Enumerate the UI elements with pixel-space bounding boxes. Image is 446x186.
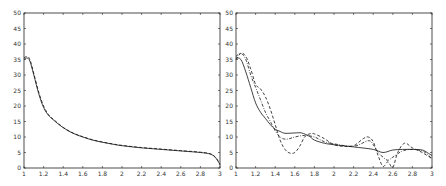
left-plot: 11.21.41.61.822.22.42.62.830510152025303… <box>13 9 222 177</box>
x-tick-label: 1.2 <box>251 170 261 177</box>
series-line-dashed <box>24 56 220 164</box>
x-tick-label: 1 <box>22 170 26 177</box>
x-tick-label: 1.4 <box>270 170 280 177</box>
y-tick-label: 30 <box>225 71 233 78</box>
x-tick-label: 1.6 <box>78 170 88 177</box>
x-tick-label: 2.4 <box>156 170 166 177</box>
x-tick-label: 2.6 <box>176 170 186 177</box>
x-tick-label: 1.6 <box>290 170 300 177</box>
y-tick-label: 25 <box>13 87 21 94</box>
x-tick-label: 1 <box>234 170 238 177</box>
y-tick-label: 10 <box>13 133 21 140</box>
x-tick-label: 2.4 <box>368 170 378 177</box>
plot-frame <box>24 13 220 168</box>
figure: 11.21.41.61.822.22.42.62.830510152025303… <box>0 0 446 186</box>
y-tick-label: 5 <box>17 149 21 156</box>
x-tick-label: 3 <box>218 170 222 177</box>
y-tick-label: 15 <box>225 118 233 125</box>
x-tick-label: 1.2 <box>39 170 49 177</box>
y-tick-label: 0 <box>17 164 21 171</box>
y-tick-label: 40 <box>13 40 21 47</box>
y-tick-label: 5 <box>229 149 233 156</box>
x-tick-label: 2.2 <box>137 170 147 177</box>
x-tick-label: 2.6 <box>388 170 398 177</box>
x-tick-label: 1.4 <box>58 170 68 177</box>
y-tick-label: 35 <box>225 56 233 63</box>
x-tick-label: 2 <box>332 170 336 177</box>
y-tick-label: 30 <box>13 71 21 78</box>
y-tick-label: 50 <box>225 9 233 16</box>
y-tick-label: 15 <box>13 118 21 125</box>
y-tick-label: 35 <box>13 56 21 63</box>
y-tick-label: 45 <box>225 25 233 32</box>
y-tick-label: 50 <box>13 9 21 16</box>
y-tick-label: 45 <box>13 25 21 32</box>
x-tick-label: 2.2 <box>349 170 359 177</box>
x-tick-label: 2.8 <box>408 170 418 177</box>
x-tick-label: 2 <box>120 170 124 177</box>
series-line-solid <box>24 58 220 165</box>
y-tick-label: 40 <box>225 40 233 47</box>
x-tick-label: 1.8 <box>98 170 108 177</box>
y-tick-label: 10 <box>225 133 233 140</box>
y-tick-label: 25 <box>225 87 233 94</box>
series-line-dashed <box>236 53 432 167</box>
y-tick-label: 0 <box>229 164 233 171</box>
y-tick-label: 20 <box>13 102 21 109</box>
series-line-solid <box>236 58 432 156</box>
x-tick-label: 2.8 <box>196 170 206 177</box>
x-tick-label: 1.8 <box>310 170 320 177</box>
x-tick-label: 3 <box>430 170 434 177</box>
y-tick-label: 20 <box>225 102 233 109</box>
right-plot: 11.21.41.61.822.22.42.62.830510152025303… <box>225 9 434 177</box>
